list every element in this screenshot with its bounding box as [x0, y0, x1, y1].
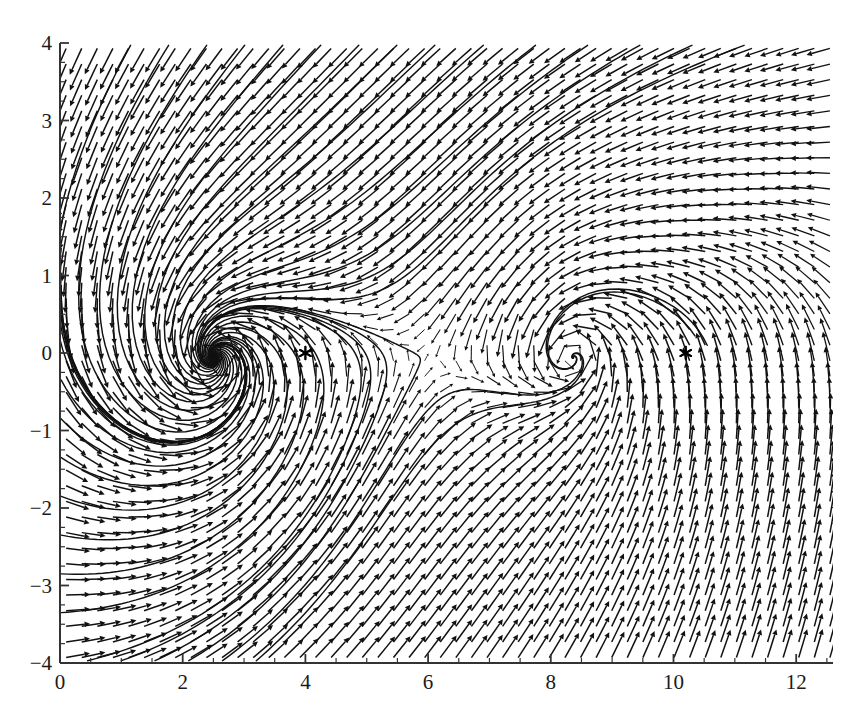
field-arrow-shaft [143, 314, 144, 339]
y-tick-label: −3 [30, 575, 52, 596]
field-arrow-shaft [402, 345, 409, 346]
field-arrow-shaft [316, 367, 317, 392]
x-tick-label: 2 [177, 672, 188, 693]
field-arrow-shaft [671, 235, 690, 236]
figure-background [0, 0, 862, 716]
field-arrow-shaft [471, 391, 484, 392]
y-tick-label: 1 [42, 265, 53, 286]
field-arrow-shaft [65, 283, 66, 308]
field-arrow-shaft [112, 298, 113, 323]
field-arrow-shaft [383, 330, 394, 331]
y-tick-label: 2 [42, 188, 53, 209]
x-tick-label: 8 [546, 672, 557, 693]
y-tick-label: −4 [30, 653, 52, 674]
field-arrow-shaft [534, 345, 535, 368]
field-arrow-shaft [235, 313, 254, 314]
field-arrow-shaft [811, 172, 830, 173]
phase-portrait-plot [0, 0, 862, 716]
field-arrow-shaft [487, 345, 488, 362]
y-tick-label: 3 [42, 110, 53, 131]
x-tick-label: 12 [786, 672, 807, 693]
field-arrow-shaft [624, 266, 643, 267]
x-tick-label: 6 [423, 672, 434, 693]
x-tick-label: 0 [55, 672, 66, 693]
phase-portrait-figure: 43210−1−2−3−4 024681012 [0, 0, 862, 716]
y-tick-label: 4 [42, 33, 53, 54]
field-arrow-shaft [733, 204, 752, 205]
field-arrow-shaft [593, 298, 612, 299]
x-tick-label: 4 [300, 672, 311, 693]
y-tick-label: 0 [42, 343, 53, 364]
field-arrow-shaft [378, 360, 379, 376]
x-tick-label: 10 [663, 672, 684, 693]
field-arrow-shaft [702, 219, 721, 220]
y-tick-label: −1 [30, 420, 52, 441]
y-tick-label: −2 [30, 498, 52, 519]
